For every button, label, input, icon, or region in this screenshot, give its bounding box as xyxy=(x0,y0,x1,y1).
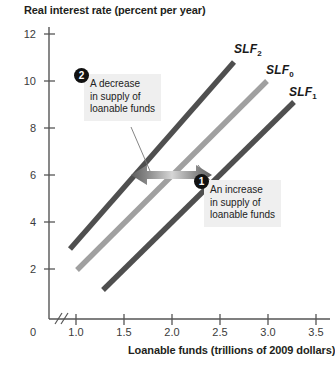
callout-decrease-line-2: in supply of xyxy=(90,91,156,104)
x-tick-label-1-0: 1.0 xyxy=(61,326,91,338)
y-tick-label-8: 8 xyxy=(14,122,36,134)
callout-decrease-badge: 2 xyxy=(74,68,89,83)
y-tick-label-0: 0 xyxy=(14,326,36,338)
curve-label-slf2-text: SLF xyxy=(234,42,257,56)
callout-increase-badge: 1 xyxy=(194,174,209,189)
x-tick-label-3-0: 3.0 xyxy=(253,326,283,338)
y-tick-label-6: 6 xyxy=(14,169,36,181)
x-tick-label-2-0: 2.0 xyxy=(157,326,187,338)
x-tick-label-2-5: 2.5 xyxy=(205,326,235,338)
curve-label-slf1-sub: 1 xyxy=(312,92,317,101)
callout-increase-supply: An increase in supply of loanable funds xyxy=(204,180,281,227)
y-tick-label-10: 10 xyxy=(14,75,36,87)
y-tick-label-2: 2 xyxy=(14,263,36,275)
callout-decrease-leader xyxy=(131,127,150,171)
callout-increase-line-3: loanable funds xyxy=(210,209,276,222)
x-tick-label-1-5: 1.5 xyxy=(109,326,139,338)
y-tick-label-12: 12 xyxy=(14,28,36,40)
y-tick-label-4: 4 xyxy=(14,216,36,228)
callout-decrease-supply: A decrease in supply of loanable funds xyxy=(84,74,161,121)
x-axis-title: Loanable funds (trillions of 2009 dollar… xyxy=(128,344,335,356)
callout-decrease-line-3: loanable funds xyxy=(90,103,156,116)
curve-label-slf0: SLF0 xyxy=(266,63,294,79)
curve-label-slf2: SLF2 xyxy=(234,42,262,58)
callout-increase-line-1: An increase xyxy=(210,184,276,197)
curve-label-slf2-sub: 2 xyxy=(257,49,262,58)
curve-label-slf1: SLF1 xyxy=(289,85,317,101)
callout-increase-line-2: in supply of xyxy=(210,197,276,210)
x-tick-label-3-5: 3.5 xyxy=(301,326,331,338)
callout-decrease-line-1: A decrease xyxy=(90,78,156,91)
curve-label-slf1-text: SLF xyxy=(289,85,312,99)
curve-label-slf0-text: SLF xyxy=(266,63,289,77)
curve-label-slf0-sub: 0 xyxy=(289,70,294,79)
